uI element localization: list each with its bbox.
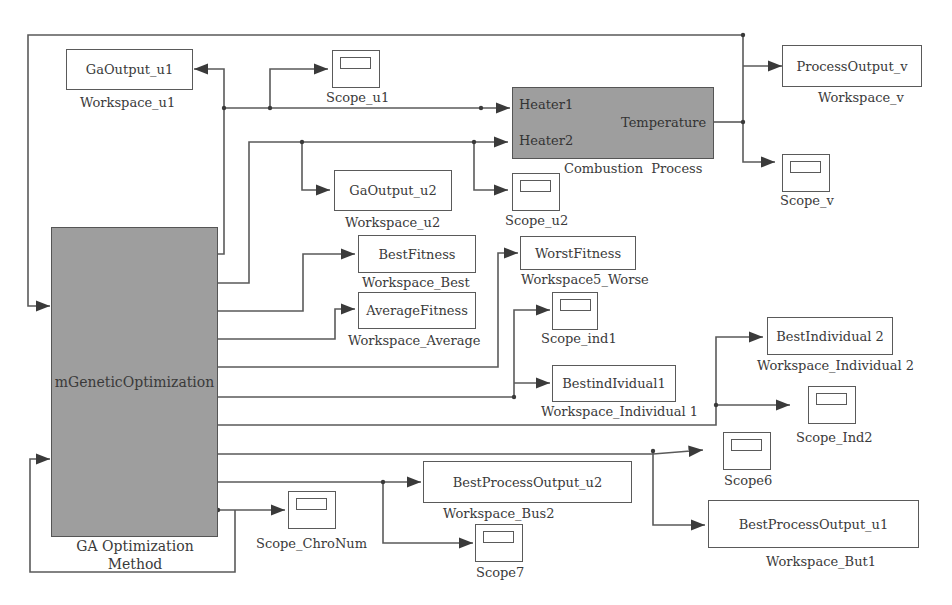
- scope-chronum-caption: Scope_ChroNum: [256, 536, 367, 551]
- workspace-individual1-caption: Workspace_Individual 1: [541, 404, 698, 419]
- workspace-worse-caption: Workspace5_Worse: [521, 272, 649, 287]
- scope-u1[interactable]: [332, 50, 380, 88]
- averagefitness-block[interactable]: AverageFitness: [358, 292, 476, 329]
- diagram-canvas: mGeneticOptimization GA Optimization Met…: [0, 0, 952, 605]
- scope-6[interactable]: [723, 432, 771, 470]
- gaoutput-u1-label: GaOutput_u1: [86, 62, 173, 77]
- scope-screen-icon: [816, 393, 847, 405]
- scope-screen-icon: [296, 498, 327, 510]
- gaoutput-u2-block[interactable]: GaOutput_u2: [334, 170, 452, 211]
- heater2-port-label: Heater2: [519, 133, 573, 148]
- worstfitness-block[interactable]: WorstFitness: [520, 236, 636, 270]
- ga-block-label: mGeneticOptimization: [55, 374, 215, 390]
- bestprocessoutput-u2-label: BestProcessOutput_u2: [453, 475, 603, 490]
- ga-block-caption-1: GA Optimization: [60, 538, 210, 554]
- bestindividual1-block[interactable]: BestindIvidual1: [552, 365, 676, 402]
- heater1-port-label: Heater1: [519, 97, 573, 112]
- workspace-u1-caption: Workspace_u1: [80, 95, 175, 110]
- worstfitness-label: WorstFitness: [535, 246, 621, 261]
- scope-ind2[interactable]: [808, 386, 856, 424]
- gaoutput-u2-label: GaOutput_u2: [349, 183, 436, 198]
- combustion-process-caption: Combustion Process: [564, 161, 702, 176]
- ga-block-caption-2: Method: [60, 556, 210, 572]
- bestfitness-block[interactable]: BestFitness: [358, 235, 476, 273]
- scope-screen-icon: [483, 531, 514, 543]
- workspace-bus2-caption: Workspace_Bus2: [443, 506, 554, 521]
- workspace-average-caption: Workspace_Average: [348, 333, 481, 348]
- bestprocessoutput-u1-block[interactable]: BestProcessOutput_u1: [708, 500, 919, 548]
- workspace-v-caption: Workspace_v: [818, 90, 904, 105]
- scope-screen-icon: [731, 439, 762, 451]
- scope-screen-icon: [520, 180, 551, 192]
- averagefitness-label: AverageFitness: [366, 303, 468, 318]
- scope6-caption: Scope6: [724, 473, 772, 488]
- scope-ind1[interactable]: [552, 292, 598, 330]
- temperature-port-label: Temperature: [621, 115, 706, 130]
- processoutput-v-block[interactable]: ProcessOutput_v: [782, 45, 922, 87]
- scope-u2-caption: Scope_u2: [505, 213, 568, 228]
- bestfitness-label: BestFitness: [379, 247, 456, 262]
- processoutput-v-label: ProcessOutput_v: [796, 59, 907, 74]
- gaoutput-u1-block[interactable]: GaOutput_u1: [66, 49, 193, 90]
- workspace-best-caption: Workspace_Best: [362, 275, 470, 290]
- bestindividual2-block[interactable]: BestIndividual 2: [767, 317, 893, 355]
- bestprocessoutput-u1-label: BestProcessOutput_u1: [739, 517, 889, 532]
- workspace-individual2-caption: Workspace_Individual 2: [757, 358, 914, 373]
- workspace-but1-caption: Workspace_But1: [766, 554, 876, 569]
- scope-screen-icon: [560, 299, 591, 311]
- scope-v[interactable]: [782, 154, 830, 192]
- scope-screen-icon: [790, 161, 821, 173]
- bestindividual1-label: BestindIvidual1: [562, 376, 666, 391]
- scope7-caption: Scope7: [476, 565, 524, 580]
- scope-screen-icon: [340, 57, 371, 69]
- scope-7[interactable]: [475, 524, 523, 562]
- workspace-u2-caption: Workspace_u2: [345, 215, 440, 230]
- scope-ind1-caption: Scope_ind1: [541, 331, 617, 346]
- ga-optimization-block[interactable]: mGeneticOptimization: [51, 227, 218, 537]
- scope-v-caption: Scope_v: [780, 193, 834, 208]
- scope-u1-caption: Scope_u1: [326, 90, 389, 105]
- scope-ind2-caption: Scope_Ind2: [796, 430, 873, 445]
- bestprocessoutput-u2-block[interactable]: BestProcessOutput_u2: [423, 461, 632, 503]
- bestindividual2-label: BestIndividual 2: [776, 329, 884, 344]
- scope-chronum[interactable]: [288, 491, 336, 529]
- scope-u2[interactable]: [512, 173, 560, 211]
